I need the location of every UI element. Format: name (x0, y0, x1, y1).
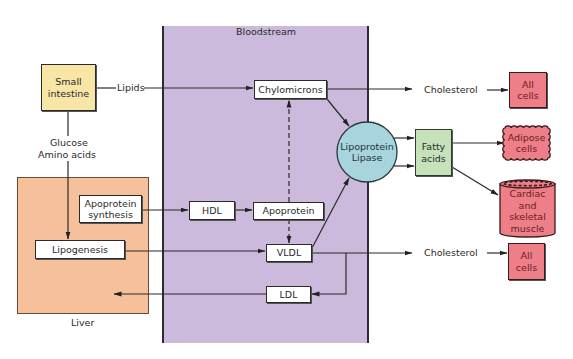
cardiac-skeletal-muscle-node: Cardiac and skeletal muscle (500, 188, 555, 234)
all-cells-node-bottom: All cells (508, 243, 545, 280)
adipose-cells-line1: Adipose (508, 132, 546, 144)
fatty-acids-node: Fatty acids (415, 129, 452, 176)
all-cells-bottom-line2: cells (516, 262, 537, 274)
small-intestine-node: Small intestine (41, 64, 96, 111)
fatty-acids-line2: acids (421, 153, 446, 165)
apoprotein-synthesis-node: Apoprotein synthesis (79, 195, 142, 223)
connector-lines (0, 0, 573, 359)
adipose-cells-node: Adipose cells (505, 128, 548, 158)
chylomicrons-node: Chylomicrons (254, 80, 327, 99)
cardiac-muscle-line4: muscle (511, 223, 545, 235)
amino-acids-label: Amino acids (38, 149, 96, 160)
apoprotein-synthesis-line2: synthesis (88, 209, 133, 221)
apoprotein-synthesis-line1: Apoprotein (84, 198, 136, 210)
cholesterol-label-top: Cholesterol (424, 84, 478, 95)
all-cells-top-line1: All (522, 79, 534, 91)
cardiac-muscle-line2: and (519, 200, 537, 212)
all-cells-node-top: All cells (509, 72, 547, 108)
lipoprotein-lipase-line2: Lipase (352, 152, 383, 164)
lipogenesis-node: Lipogenesis (35, 240, 125, 259)
adipose-cells-line2: cells (516, 143, 537, 155)
lipoprotein-lipase-line1: Lipoprotein (340, 141, 394, 153)
all-cells-top-line2: cells (517, 90, 538, 102)
ldl-node: LDL (266, 286, 311, 303)
apoprotein-node: Apoprotein (253, 202, 324, 220)
lipids-label: Lipids (117, 82, 145, 93)
lipoprotein-lipase-node: Lipoprotein Lipase (337, 122, 397, 182)
cardiac-muscle-line3: skeletal (509, 211, 546, 223)
cholesterol-label-bottom: Cholesterol (424, 247, 478, 258)
fatty-acids-line1: Fatty (422, 141, 446, 153)
vldl-node: VLDL (266, 244, 312, 262)
small-intestine-line1: Small (55, 76, 81, 88)
cardiac-muscle-line1: Cardiac (510, 188, 546, 200)
hdl-node: HDL (189, 201, 235, 220)
lipid-transport-diagram: Bloodstream Liver (0, 0, 573, 359)
glucose-label: Glucose (50, 137, 88, 148)
all-cells-bottom-line1: All (521, 250, 533, 262)
small-intestine-line2: intestine (48, 88, 89, 100)
